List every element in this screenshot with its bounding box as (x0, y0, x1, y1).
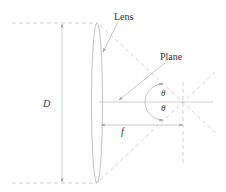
lens-pointer-line (103, 22, 118, 52)
plane-label: Plane (160, 52, 182, 62)
lens-diagram-svg (0, 0, 226, 192)
ray-bottom (100, 72, 215, 180)
angle-theta-bottom-label: θ (161, 104, 165, 113)
ray-top (100, 25, 218, 135)
focal-length-label: f (121, 127, 124, 137)
lens-label: Lens (114, 12, 133, 22)
diameter-label: D (43, 99, 50, 109)
plane-pointer-line (119, 63, 165, 100)
lens-shape (92, 23, 103, 183)
angle-theta-top-label: θ (161, 89, 165, 98)
